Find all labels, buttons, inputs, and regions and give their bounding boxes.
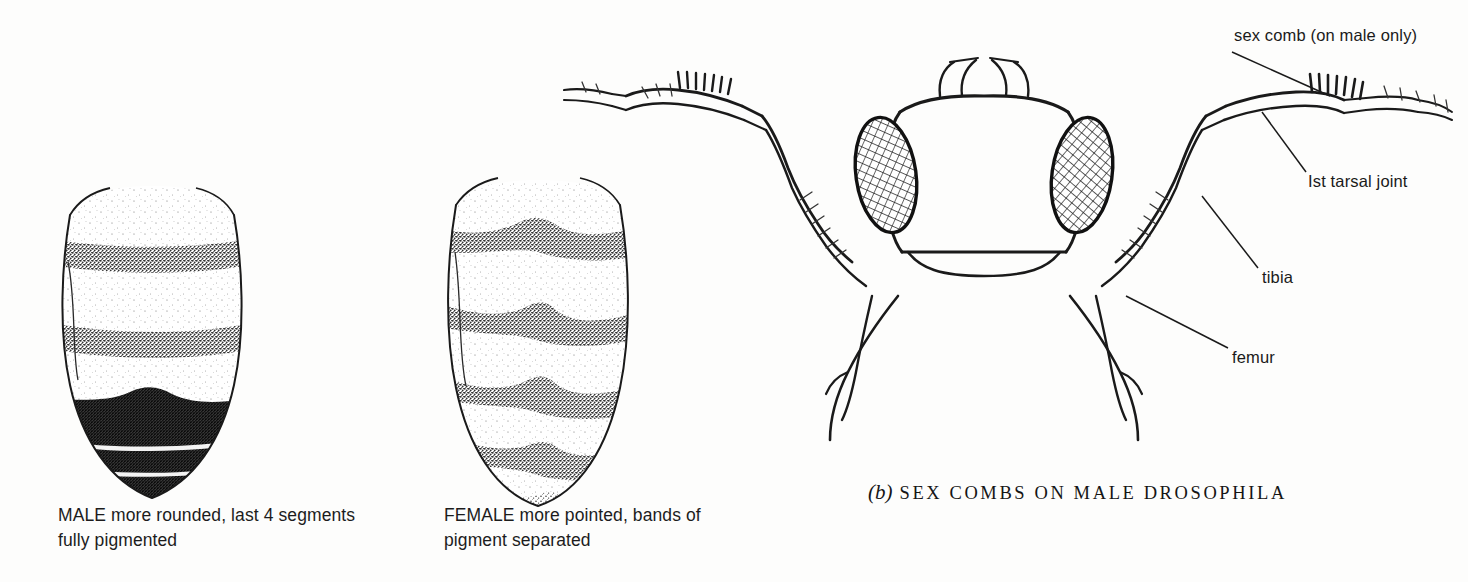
left-tibia-joint <box>742 106 762 116</box>
leader-sex-comb <box>1232 52 1330 96</box>
leader-tibia <box>1202 196 1258 268</box>
panel-letter: (b) <box>868 480 893 504</box>
label-sex-comb: sex comb (on male only) <box>1234 26 1417 45</box>
leader-femur <box>1126 296 1228 348</box>
right-tarsus-1 <box>1366 97 1418 112</box>
right-midleg <box>1070 296 1138 440</box>
male-abdomen-drawing <box>40 170 264 520</box>
label-tibia: tibia <box>1262 268 1293 287</box>
leader-tarsal-joint <box>1262 112 1306 172</box>
label-femur: femur <box>1232 348 1275 367</box>
label-1st-tarsal-joint: Ist tarsal joint <box>1308 172 1408 191</box>
fly-head-drawing <box>564 58 1452 440</box>
head-vertex <box>900 96 1068 112</box>
leader-lines <box>1126 52 1330 348</box>
right-tibia-joint <box>1206 106 1226 116</box>
left-compound-eye <box>848 113 924 236</box>
left-midleg <box>830 296 898 440</box>
panel-b-caption: (b)SEX COMBS ON MALE DROSOPHILA <box>868 480 1287 505</box>
right-compound-eye <box>1044 113 1120 236</box>
left-tarsus <box>564 89 612 106</box>
female-abdomen-drawing <box>430 160 650 530</box>
female-abdomen-caption: FEMALE more pointed, bands of pigment se… <box>444 503 744 553</box>
figure-canvas: MALE more rounded, last 4 segments fully… <box>0 0 1468 582</box>
male-abdomen-caption: MALE more rounded, last 4 segments fully… <box>58 503 358 553</box>
proboscis-base <box>908 252 1060 276</box>
panel-title: SEX COMBS ON MALE DROSOPHILA <box>900 483 1287 503</box>
right-sex-comb <box>1310 74 1363 99</box>
